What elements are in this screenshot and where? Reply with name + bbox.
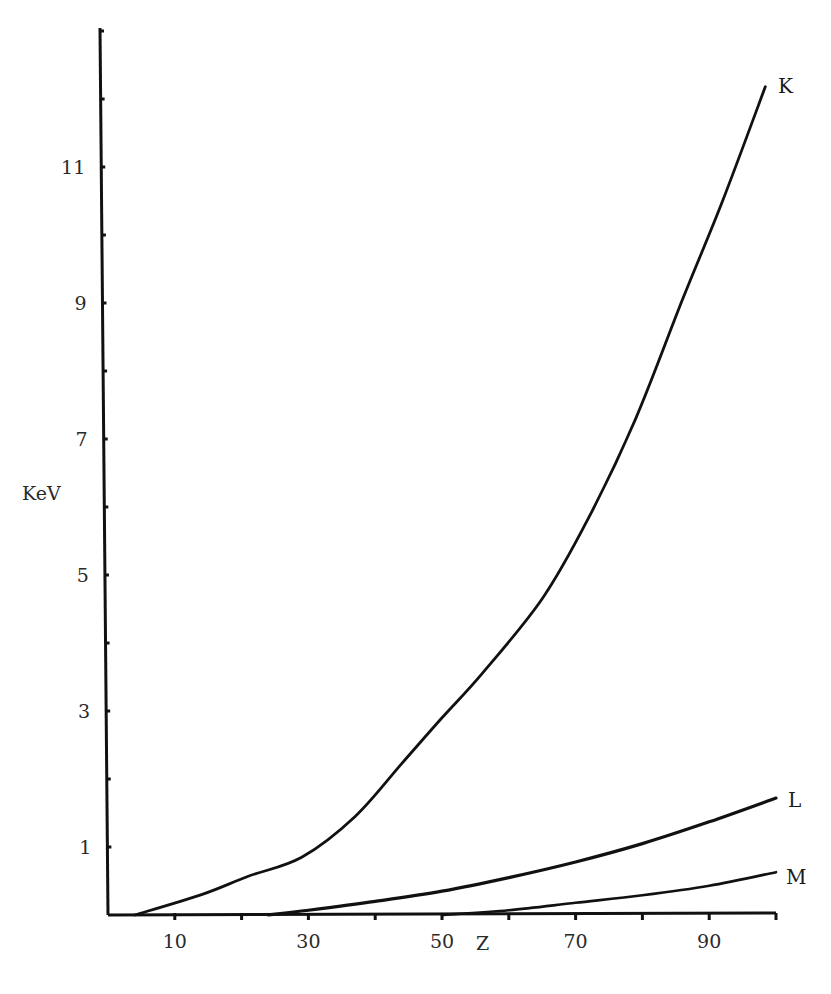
curve-m xyxy=(442,872,776,915)
y-tick-label: 11 xyxy=(61,156,85,178)
ticks: 13579111030507090 xyxy=(61,31,776,952)
x-tick-label: 10 xyxy=(163,930,187,952)
x-tick-label: 90 xyxy=(697,930,721,952)
y-tick-label: 1 xyxy=(79,836,91,858)
y-tick-label: 5 xyxy=(77,564,89,586)
y-tick-label: 9 xyxy=(74,292,86,314)
y-tick-label: 7 xyxy=(76,428,88,450)
x-axis-label: Z xyxy=(476,932,489,954)
curve-label-l: L xyxy=(788,788,801,812)
curve-k xyxy=(135,87,766,915)
y-axis-line xyxy=(100,28,108,915)
y-axis-label: KeV xyxy=(22,482,61,504)
curve-l xyxy=(268,798,776,915)
curve-label-k: K xyxy=(778,74,794,98)
x-tick-label: 70 xyxy=(564,930,588,952)
chart: 13579111030507090 KeV Z K L M xyxy=(0,0,831,994)
x-tick-label: 50 xyxy=(430,930,454,952)
y-tick-label: 3 xyxy=(78,700,90,722)
curve-label-m: M xyxy=(786,865,806,889)
curves xyxy=(135,87,776,915)
x-tick-label: 30 xyxy=(296,930,320,952)
axes xyxy=(100,28,776,915)
